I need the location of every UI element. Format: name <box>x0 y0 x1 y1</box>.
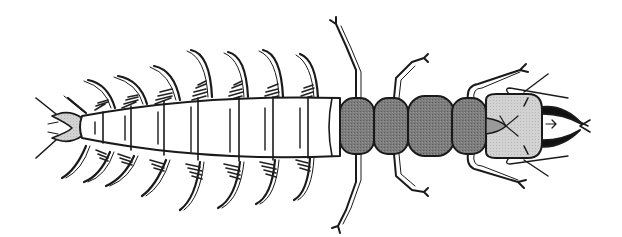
tail <box>36 98 82 158</box>
abdomen <box>80 97 340 157</box>
larva-svg <box>0 0 622 237</box>
thorax <box>340 96 486 156</box>
larva-illustration: Aquatic insect larva (hellgrammite-type)… <box>0 0 622 237</box>
head <box>486 74 590 176</box>
